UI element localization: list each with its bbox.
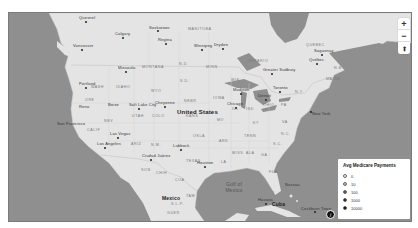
city-marker — [164, 106, 166, 108]
city-marker — [265, 99, 267, 101]
map-legend: Avg Medicare Payments 0 10 100 1000 1000… — [338, 159, 410, 219]
region-label-manitoba: MANITOBA — [188, 27, 212, 31]
city-marker — [85, 21, 87, 23]
compass-reset-north-button[interactable]: ⬆ — [398, 42, 410, 54]
city-marker — [117, 137, 119, 139]
city-marker — [204, 166, 206, 168]
city-label: Ciudad Juárez — [142, 153, 170, 158]
legend-swatch-circle-icon — [343, 174, 347, 178]
city-label: Las Vegas — [110, 131, 130, 136]
state-label-calif: CALIF — [87, 128, 100, 132]
country-label-mexico: Mexico — [162, 195, 180, 201]
city-label: Los Angeles — [97, 141, 121, 146]
state-label-nebr: NEBR — [184, 99, 196, 103]
legend-item: 1000 — [343, 196, 405, 204]
city-label: Havana — [258, 197, 273, 202]
state-label-utah: UTAH — [132, 114, 144, 118]
legend-item: 100 — [343, 188, 405, 196]
region-label-coa: COA — [175, 178, 185, 182]
state-label-ky: KY — [253, 121, 259, 125]
legend-item: 0 — [343, 172, 405, 180]
zoom-in-button[interactable]: + — [398, 18, 410, 30]
legend-swatch-circle-icon — [343, 182, 347, 186]
legend-swatch-circle-icon — [343, 198, 347, 202]
city-marker — [81, 49, 83, 51]
city-marker — [222, 48, 224, 50]
map-canvas[interactable]: United States Mexico Cuba Gulf of Mexico… — [8, 12, 412, 222]
city-marker — [104, 147, 106, 149]
city-label: Lubbock — [173, 143, 190, 148]
city-label: New York — [312, 111, 331, 116]
city-marker — [240, 93, 242, 95]
region-label-ontario: ONTARIO — [248, 59, 268, 63]
city-label: Detroit — [258, 93, 271, 98]
city-label: Vancouver — [73, 43, 94, 48]
city-label: Reno — [79, 104, 89, 109]
state-label-nd: N.D. — [179, 62, 189, 66]
city-label: Quesnel — [79, 15, 95, 20]
city-label: San Francisco — [57, 121, 85, 126]
city-marker — [314, 211, 316, 213]
legend-swatch-circle-icon — [343, 190, 347, 194]
city-label: Regina — [158, 37, 172, 42]
state-label-va: VA — [282, 120, 288, 124]
city-label: Saguenay — [314, 48, 334, 53]
city-label: Boise — [108, 102, 119, 107]
city-label: Chicago — [227, 101, 243, 106]
region-label-quebec: QUEBEC — [306, 43, 325, 47]
state-label-colo: COLO — [152, 114, 165, 118]
region-label-son: SON — [141, 168, 151, 172]
city-label: Nassau — [285, 182, 300, 187]
legend-item: 10000 — [343, 204, 405, 212]
state-label-wyo: WYO — [151, 89, 161, 93]
state-label-idaho: IDAHO — [116, 85, 130, 89]
state-label-ohio: OHIO — [263, 103, 275, 107]
legend-swatch-circle-icon — [343, 206, 347, 210]
city-marker — [150, 159, 152, 161]
state-label-okla: OKLA — [193, 134, 205, 138]
city-marker — [165, 43, 167, 45]
legend-item-label: 10000 — [351, 206, 362, 211]
city-marker — [279, 91, 281, 93]
state-label-pa: PA — [281, 103, 287, 107]
city-marker — [201, 49, 203, 51]
state-label-maine: MAINE — [326, 77, 340, 81]
city-label: Greater Sudbury — [263, 67, 296, 72]
city-label: Winnipeg — [194, 43, 212, 48]
city-marker — [125, 71, 127, 73]
city-marker — [321, 54, 323, 56]
city-label: Toronto — [273, 85, 288, 90]
region-label-tam: TAM — [186, 194, 195, 198]
state-label-tenn: TENN — [244, 134, 256, 138]
city-label: Salt Lake City — [129, 102, 156, 107]
city-marker — [85, 87, 87, 89]
state-label-montana: MONTANA — [142, 65, 164, 69]
legend-item-label: 10 — [351, 182, 355, 187]
city-label: Missoula — [118, 65, 135, 70]
zoom-out-button[interactable]: − — [398, 30, 410, 42]
legend-item-label: 1000 — [351, 198, 360, 203]
state-label-ind: IND — [246, 107, 254, 111]
water-label-gulf-of-mexico: Gulf of Mexico — [221, 181, 247, 193]
legend-item-label: 0 — [351, 174, 353, 179]
legend-item: 10 — [343, 180, 405, 188]
legend-item-label: 100 — [351, 190, 358, 195]
state-label-ala: ALA — [246, 151, 255, 155]
state-label-kans: KANS — [186, 114, 198, 118]
state-label-ny: N.Y. — [295, 90, 304, 94]
city-marker — [138, 108, 140, 110]
city-label: Madison — [233, 87, 250, 92]
city-label: Saskatoon — [149, 25, 170, 30]
country-label-cuba: Cuba — [272, 201, 285, 207]
map-navigation-control: + − ⬆ — [398, 18, 410, 54]
city-marker — [157, 30, 159, 32]
city-marker — [316, 63, 318, 65]
state-label-ariz: ARIZ — [131, 142, 142, 146]
state-label-ark: ARK — [219, 139, 228, 143]
city-marker — [310, 111, 312, 113]
city-label: Houston — [197, 160, 213, 165]
state-label-minn: MINN — [206, 65, 218, 69]
attribution-info-button[interactable]: i — [326, 210, 335, 219]
region-label-chih: CHIH — [156, 171, 167, 175]
city-marker — [271, 73, 273, 75]
